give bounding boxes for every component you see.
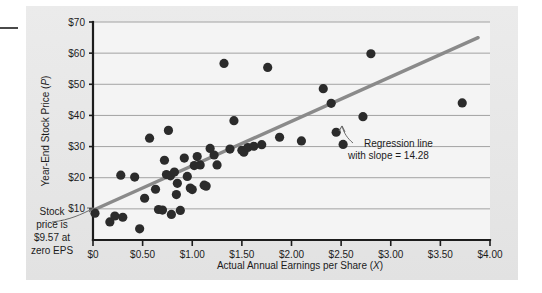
intercept-annotation-line: price is — [36, 219, 68, 230]
y-tick-label: $20 — [68, 172, 85, 183]
data-point — [170, 168, 179, 177]
y-tick-label: $50 — [68, 79, 85, 90]
data-point — [172, 190, 181, 199]
data-point — [151, 185, 160, 194]
data-point — [275, 133, 284, 142]
data-point — [297, 136, 306, 145]
data-point — [145, 134, 154, 143]
data-point — [110, 211, 119, 220]
regression-label-line-2: with slope = 14.28 — [347, 150, 429, 161]
data-point — [366, 49, 375, 58]
data-point — [219, 59, 228, 68]
x-axis-title: Actual Annual Earnings per Share (X) — [217, 260, 383, 271]
y-tick-label: $70 — [68, 17, 85, 28]
regression-line-group — [93, 38, 478, 211]
y-axis-title-prefix: Year-End Stock Price ( — [40, 85, 51, 186]
data-point — [183, 172, 192, 181]
x-tick-label-group: $0$0.50$1.00$1.50$2.00$2.50$3.00$3.50$4.… — [87, 249, 503, 260]
x-tick-label: $1.00 — [180, 249, 205, 260]
y-tick-label: $30 — [68, 141, 85, 152]
x-tick-label: $3.00 — [378, 249, 403, 260]
data-point — [118, 213, 127, 222]
data-point — [158, 206, 167, 215]
data-point — [180, 153, 189, 162]
data-point — [212, 160, 221, 169]
data-point — [167, 210, 176, 219]
x-tick-label: $4.00 — [477, 249, 502, 260]
regression-label-line-1: Regression line — [364, 138, 433, 149]
data-point — [209, 150, 218, 159]
data-point — [225, 144, 234, 153]
scatter-chart: $10$20$30$40$50$60$70 $0$0.50$1.00$1.50$… — [0, 0, 542, 293]
data-point — [196, 160, 205, 169]
x-tick-label: $0.50 — [130, 249, 155, 260]
data-point — [176, 206, 185, 215]
x-axis-title-prefix: Actual Annual Earnings per Share ( — [217, 260, 374, 271]
data-point — [327, 99, 336, 108]
x-tick-label: $3.50 — [428, 249, 453, 260]
y-tick-label: $40 — [68, 110, 85, 121]
data-point — [130, 172, 139, 181]
y-axis-title: Year-End Stock Price (P) — [40, 76, 51, 187]
x-tick-label: $0 — [87, 249, 99, 260]
data-point — [263, 63, 272, 72]
data-point — [202, 182, 211, 191]
data-point — [116, 171, 125, 180]
gridline-group — [93, 22, 490, 209]
intercept-annotation-line: zero EPS — [31, 245, 74, 256]
x-axis-title-suffix: ) — [380, 260, 383, 271]
data-point — [135, 224, 144, 233]
intercept-annotation-line: $9.57 at — [34, 232, 70, 243]
data-point — [319, 84, 328, 93]
data-point — [164, 126, 173, 135]
y-tick-label: $10 — [68, 203, 85, 214]
y-tick-label-group: $10$20$30$40$50$60$70 — [68, 17, 85, 215]
data-point — [140, 194, 149, 203]
data-point — [339, 140, 348, 149]
figure-container: $10$20$30$40$50$60$70 $0$0.50$1.00$1.50$… — [0, 0, 542, 293]
y-tick-label: $60 — [68, 48, 85, 59]
x-tick-label: $1.50 — [229, 249, 254, 260]
data-point — [229, 116, 238, 125]
data-point — [188, 185, 197, 194]
intercept-annotation-text: Stockprice is$9.57 atzero EPS — [31, 206, 74, 256]
regression-line — [93, 38, 478, 211]
data-point — [458, 98, 467, 107]
intercept-annotation-line: Stock — [39, 206, 65, 217]
data-point — [193, 152, 202, 161]
x-tick-label: $2.50 — [329, 249, 354, 260]
data-point — [160, 156, 169, 165]
data-point — [249, 142, 258, 151]
data-point — [257, 140, 266, 149]
x-tick-label: $2.00 — [279, 249, 304, 260]
data-point — [358, 112, 367, 121]
y-axis-title-suffix: ) — [40, 76, 51, 79]
data-point — [332, 128, 341, 137]
data-point — [173, 179, 182, 188]
